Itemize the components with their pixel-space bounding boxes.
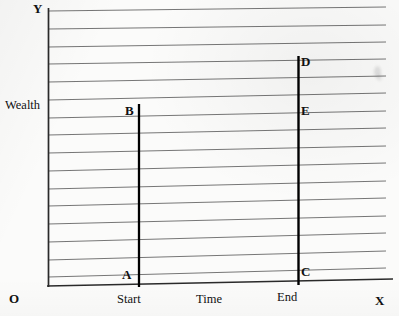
ruled-line	[48, 233, 386, 242]
point-label-e: E	[301, 104, 310, 117]
x-axis-name: Time	[196, 293, 222, 306]
ruled-lines	[48, 7, 386, 277]
x-tick-end: End	[277, 291, 297, 304]
x-tick-start: Start	[117, 293, 141, 306]
ruled-line	[48, 146, 386, 153]
figure-canvas: Y X O Wealth Time Start End A B C D E	[0, 0, 399, 316]
point-label-d: D	[301, 55, 310, 68]
ruled-line	[48, 76, 386, 82]
ruled-line	[48, 128, 386, 135]
ruled-line	[48, 93, 386, 100]
ruled-line	[48, 111, 386, 118]
ruled-line	[48, 25, 386, 29]
x-axis-label: X	[375, 294, 384, 307]
ruled-line	[48, 268, 386, 277]
point-label-a: A	[122, 268, 131, 281]
ruled-line	[48, 7, 386, 11]
x-axis-line	[47, 279, 393, 286]
point-label-c: C	[301, 265, 310, 278]
y-axis-label: Y	[33, 2, 42, 15]
plot-drawing	[0, 0, 399, 316]
ruled-line	[48, 216, 386, 224]
ruled-line	[48, 163, 386, 171]
ruled-line	[48, 198, 386, 206]
ruled-line	[48, 42, 386, 47]
ruled-line	[48, 181, 386, 189]
ruled-line	[48, 59, 386, 64]
ruled-line	[48, 251, 386, 260]
y-axis-name: Wealth	[5, 99, 40, 112]
point-label-b: B	[125, 104, 134, 117]
origin-label: O	[9, 292, 19, 305]
